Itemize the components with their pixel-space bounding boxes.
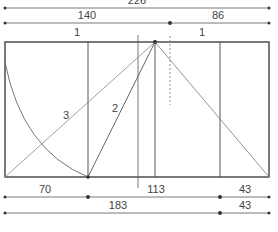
dimension-bottom-row1: 70 113 43: [4, 183, 271, 199]
dimension-140-86: 140 86: [4, 9, 271, 25]
dimension-left-label: 140: [78, 9, 96, 21]
construction-arc: [5, 62, 88, 177]
dimension-70-label: 70: [39, 183, 51, 195]
unit-label-right: 1: [199, 26, 205, 38]
dimension-total-label: 226: [128, 0, 146, 6]
dimension-total: 226: [4, 0, 271, 10]
proportion-diagram: 226 140 86 1 1 3 2 70 113 43: [0, 0, 278, 232]
diagonal-right: [155, 42, 269, 177]
dimension-183-label: 183: [109, 199, 127, 211]
dimension-bottom-row2: 183 43: [4, 199, 271, 215]
diagonal-2: [88, 42, 155, 177]
dimension-43-label-row1: 43: [239, 183, 251, 195]
dimension-113-label: 113: [147, 183, 165, 195]
diagonal-3: [5, 42, 155, 177]
unit-label-left: 1: [74, 26, 80, 38]
dimension-43-label-row2: 43: [239, 199, 251, 211]
arc-end-point: [86, 175, 90, 179]
diagonal-2-label: 2: [112, 102, 118, 114]
dimension-right-label: 86: [212, 9, 224, 21]
outer-rectangle: [5, 42, 269, 177]
diagonal-3-label: 3: [63, 109, 69, 121]
